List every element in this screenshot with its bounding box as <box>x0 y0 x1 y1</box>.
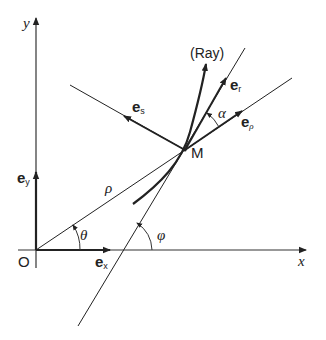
es-label: es <box>132 99 145 116</box>
alpha-label: α <box>218 106 226 121</box>
erho-label: eρ <box>241 114 254 131</box>
y-axis-label: y <box>23 16 30 31</box>
point-m <box>184 149 187 152</box>
ey-label: ey <box>17 170 30 187</box>
phi-label: φ <box>157 228 165 243</box>
diagram-canvas <box>0 0 326 340</box>
rho-line <box>36 78 292 250</box>
erho-sub: ρ <box>249 121 253 131</box>
theta-arc <box>73 225 80 250</box>
origin-label: O <box>18 254 30 269</box>
point-m-label: M <box>191 145 204 160</box>
theta-label: θ <box>80 228 87 243</box>
ray-label: (Ray) <box>190 46 224 60</box>
phi-arc <box>137 223 152 250</box>
er-label: er <box>230 77 241 94</box>
es-sub: s <box>140 106 145 116</box>
ey-sub: y <box>25 177 30 187</box>
ex-label: ex <box>95 254 108 271</box>
er-sub: r <box>238 84 241 94</box>
ex-sub: x <box>103 261 108 271</box>
es-vector <box>124 116 185 150</box>
x-axis-label: x <box>298 254 305 269</box>
rho-label: ρ <box>105 181 112 196</box>
